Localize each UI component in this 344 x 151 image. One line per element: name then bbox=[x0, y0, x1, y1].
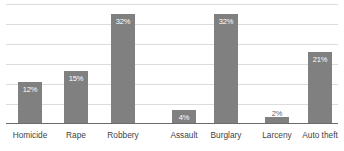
x-axis-line bbox=[6, 123, 338, 124]
gridline bbox=[6, 84, 338, 85]
bar-assault: 4% bbox=[172, 110, 196, 124]
bar-value-label: 32% bbox=[111, 18, 135, 26]
category-label-homicide: Homicide bbox=[6, 130, 54, 140]
bar-value-label: 2% bbox=[265, 110, 289, 118]
bar-chart: 12% 15% 32% 4% 32% 2% 21% Homicide Rape … bbox=[0, 0, 344, 151]
bar-value-label: 15% bbox=[64, 75, 88, 83]
gridline bbox=[6, 4, 338, 5]
category-label-assault: Assault bbox=[160, 130, 208, 140]
bar-value-label: 12% bbox=[18, 86, 42, 94]
category-label-auto-theft: Auto theft bbox=[295, 130, 344, 140]
bar-burglary: 32% bbox=[214, 14, 238, 124]
bar-robbery: 32% bbox=[111, 14, 135, 124]
category-label-robbery: Robbery bbox=[99, 130, 147, 140]
bar-value-label: 4% bbox=[172, 114, 196, 122]
category-label-burglary: Burglary bbox=[202, 130, 250, 140]
category-label-larceny: Larceny bbox=[253, 130, 301, 140]
gridline bbox=[6, 44, 338, 45]
category-axis-labels: Homicide Rape Robbery Assault Burglary L… bbox=[0, 126, 344, 151]
bar-rape: 15% bbox=[64, 71, 88, 124]
gridline bbox=[6, 24, 338, 25]
gridline bbox=[6, 64, 338, 65]
bar-value-label: 32% bbox=[214, 18, 238, 26]
bar-homicide: 12% bbox=[18, 82, 42, 124]
bar-auto-theft: 21% bbox=[308, 52, 332, 124]
category-label-rape: Rape bbox=[54, 130, 98, 140]
gridline bbox=[6, 104, 338, 105]
plot-area: 12% 15% 32% 4% 32% 2% 21% bbox=[0, 0, 344, 124]
bar-value-label: 21% bbox=[308, 56, 332, 64]
